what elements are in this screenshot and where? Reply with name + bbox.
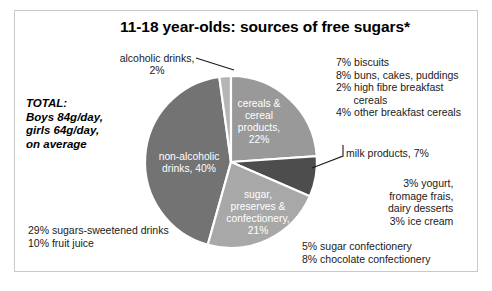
slice-label-cereals-line4: 22% bbox=[249, 134, 270, 145]
figure-container: 11-18 year-olds: sources of free sugars*… bbox=[0, 0, 492, 291]
slice-cereals-cereal-products bbox=[231, 76, 317, 162]
slice-label-sugar-line4: 21% bbox=[248, 225, 269, 236]
slice-label-cereals-line3: products, bbox=[238, 122, 280, 133]
slice-label-sugar-line1: sugar, bbox=[244, 189, 272, 200]
slice-label-cereals-line2: cereal bbox=[245, 110, 273, 121]
slice-label-sugar-line3: confectionery, bbox=[226, 213, 289, 224]
slice-label-non-alcoholic-line1: non-alcoholic bbox=[159, 151, 220, 162]
slice-label-non-alcoholic-line2: drinks, 40% bbox=[162, 163, 216, 174]
slice-label-cereals-line1: cereals & bbox=[238, 98, 281, 109]
pie-chart: non-alcoholic drinks, 40% cereals & cere… bbox=[0, 0, 492, 291]
slice-label-sugar-line2: preserves & bbox=[231, 201, 286, 212]
leader-line-alcoholic bbox=[196, 58, 234, 70]
